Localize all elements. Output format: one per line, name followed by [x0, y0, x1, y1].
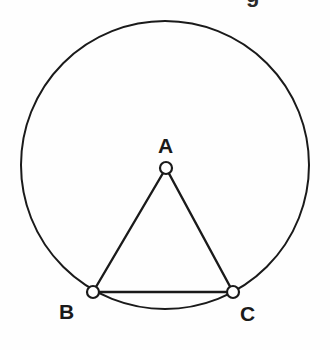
clipped-title-glyph: g: [246, 0, 259, 6]
vertex-label-c: C: [240, 303, 255, 324]
geometry-diagram: [0, 0, 330, 350]
inscribed-triangle-ABC: [93, 168, 233, 292]
vertex-marker-b: [87, 286, 99, 298]
vertex-label-b: B: [59, 301, 74, 322]
vertex-marker-a: [160, 162, 172, 174]
vertex-marker-c: [227, 286, 239, 298]
figure-canvas: A B C g: [0, 0, 330, 350]
vertex-label-a: A: [158, 135, 173, 156]
